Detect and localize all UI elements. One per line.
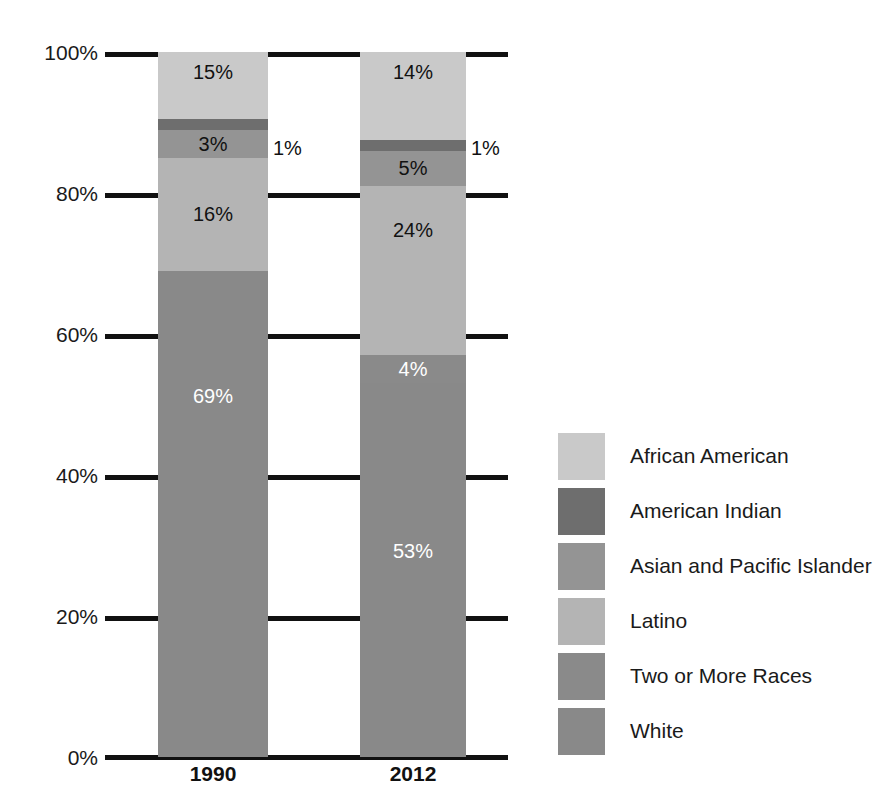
y-tick-label-80: 80% (30, 182, 98, 206)
y-tick-label-60: 60% (30, 323, 98, 347)
legend-swatch-american-indian (558, 488, 605, 535)
bar-1990-segment-white[interactable]: 69% (158, 271, 268, 758)
bar-1990-latino-value: 16% (193, 204, 233, 224)
x-axis-label-2012: 2012 (360, 762, 466, 786)
legend-label-american-indian: American Indian (630, 499, 782, 523)
bar-1990-segment-asian-pacific[interactable]: 3% (158, 130, 268, 158)
bar-1990-segment-latino[interactable]: 16% (158, 158, 268, 271)
legend-label-two-or-more-races: Two or More Races (630, 664, 812, 688)
stacked-bar-chart: 100% 80% 60% 40% 20% 0% 69% 16% 3% (0, 0, 893, 805)
bar-1990-white-value: 69% (193, 386, 233, 406)
bar-1990[interactable]: 69% 16% 3% 15% (158, 52, 268, 757)
bar-2012-latino-value: 24% (393, 220, 433, 240)
legend-label-asian-pacific-islander: Asian and Pacific Islander (630, 554, 872, 578)
legend-label-latino: Latino (630, 609, 687, 633)
bar-2012-two-or-more-value: 4% (399, 359, 428, 379)
bar-2012-segment-white[interactable]: 53% (360, 383, 466, 757)
bar-2012-white-value: 53% (393, 541, 433, 561)
legend-swatch-latino (558, 598, 605, 645)
plot-area: 69% 16% 3% 15% 1% 53% (105, 52, 508, 757)
legend-item-african-american[interactable]: African American (558, 432, 872, 480)
bar-2012-segment-asian-pacific[interactable]: 5% (360, 151, 466, 186)
x-axis-label-1990: 1990 (158, 762, 268, 786)
bar-2012-segment-latino[interactable]: 24% (360, 186, 466, 355)
bar-1990-african-american-value: 15% (193, 62, 233, 82)
legend: African American American Indian Asian a… (558, 432, 872, 762)
legend-item-latino[interactable]: Latino (558, 597, 872, 645)
y-tick-label-20: 20% (30, 605, 98, 629)
y-tick-label-100: 100% (30, 41, 98, 65)
bar-2012-asian-pacific-value: 5% (399, 158, 428, 178)
bar-2012-segment-american-indian[interactable] (360, 140, 466, 151)
bar-1990-segment-american-indian[interactable] (158, 119, 268, 130)
legend-item-american-indian[interactable]: American Indian (558, 487, 872, 535)
bar-2012-american-indian-value: 1% (471, 137, 500, 160)
legend-label-african-american: African American (630, 444, 789, 468)
y-tick-label-40: 40% (30, 464, 98, 488)
legend-item-two-or-more-races[interactable]: Two or More Races (558, 652, 872, 700)
legend-swatch-asian-pacific-islander (558, 543, 605, 590)
legend-swatch-african-american (558, 433, 605, 480)
bar-2012-segment-african-american[interactable]: 14% (360, 52, 466, 140)
bar-2012[interactable]: 53% 4% 24% 5% 14% (360, 52, 466, 757)
bar-2012-african-american-value: 14% (393, 62, 433, 82)
y-tick-label-0: 0% (30, 746, 98, 770)
legend-item-asian-pacific-islander[interactable]: Asian and Pacific Islander (558, 542, 872, 590)
legend-swatch-white (558, 708, 605, 755)
bar-1990-american-indian-value: 1% (273, 137, 302, 160)
legend-swatch-two-or-more-races (558, 653, 605, 700)
bar-1990-segment-african-american[interactable]: 15% (158, 52, 268, 119)
bar-2012-segment-two-or-more[interactable]: 4% (360, 355, 466, 383)
bar-1990-asian-pacific-value: 3% (199, 134, 228, 154)
legend-label-white: White (630, 719, 684, 743)
legend-item-white[interactable]: White (558, 707, 872, 755)
